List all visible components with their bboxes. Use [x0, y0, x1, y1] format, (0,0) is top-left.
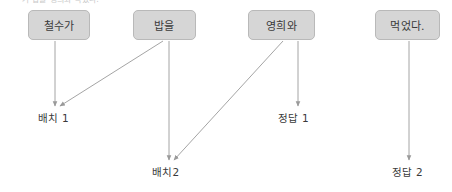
slot-label: 정답 1	[278, 110, 309, 125]
node-box[interactable]: 영희와	[248, 10, 315, 40]
node-box[interactable]: 밥을	[133, 10, 196, 40]
node-label: 철수가	[44, 17, 75, 33]
slot-label: 정답 2	[392, 164, 423, 179]
edge-arrow	[60, 41, 163, 106]
node-label: 밥을	[154, 17, 174, 33]
node-label: 영희와	[266, 17, 297, 33]
node-box[interactable]: 먹었다.	[375, 10, 440, 40]
node-box[interactable]: 철수가	[28, 10, 90, 40]
node-label: 먹었다.	[390, 17, 424, 33]
slot-label: 배치2	[152, 164, 179, 179]
diagram-canvas: 가 밥을 영희와 먹었다. 철수가밥을영희와먹었다. 배치 1배치2정답 1정답…	[0, 0, 452, 192]
edges	[55, 41, 409, 160]
slot-label: 배치 1	[38, 110, 69, 125]
edge-arrow	[174, 41, 283, 160]
